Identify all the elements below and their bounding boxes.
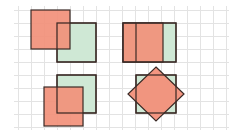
red-square — [31, 10, 70, 49]
red-square — [44, 87, 83, 126]
grid-diagram — [0, 0, 246, 137]
panel-top-right — [123, 23, 176, 62]
panel-top-left — [31, 10, 96, 62]
red-square — [123, 23, 163, 62]
panel-bottom-right — [128, 67, 184, 121]
panel-bottom-left — [44, 75, 96, 126]
diagram-canvas — [0, 0, 246, 137]
